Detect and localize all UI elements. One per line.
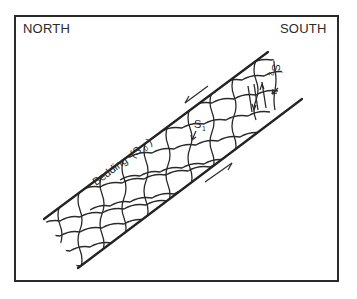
s1-label: S 1 xyxy=(191,118,206,140)
svg-text:1: 1 xyxy=(202,125,206,132)
svg-text:S: S xyxy=(270,64,282,71)
svg-text:2: 2 xyxy=(268,72,275,76)
s2-label: S 2 xyxy=(268,64,282,76)
svg-text:S: S xyxy=(194,118,201,130)
fold-cleavage-diagram: S 1 S 2 Bedding (S 0 ) xyxy=(0,0,357,299)
cleavage-network xyxy=(40,50,298,275)
lower-shear-arrow xyxy=(205,163,232,182)
